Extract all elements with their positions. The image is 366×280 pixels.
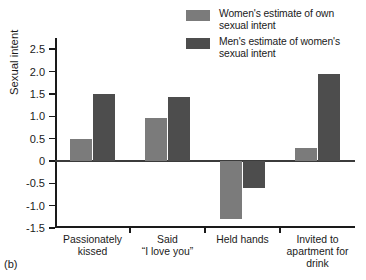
x-axis-category-label: Passionately kissed [55, 234, 130, 258]
bar [168, 97, 190, 160]
y-axis-tick: -0.5 [49, 183, 55, 184]
bar [145, 118, 167, 161]
y-axis-tick: 1.0 [49, 116, 55, 117]
legend-item-label: Women's estimate of own sexual intent [219, 8, 334, 31]
y-axis-tick: 2.0 [49, 71, 55, 72]
y-axis-title: Sexual intent [8, 30, 20, 95]
x-axis-tick [279, 228, 280, 233]
y-axis-tick-label: 0.5 [30, 133, 45, 145]
y-axis-tick-label: 1.0 [30, 110, 45, 122]
y-axis-tick: -1.5 [49, 227, 55, 228]
y-axis-tick: 1.5 [49, 93, 55, 94]
y-axis-tick-label: 1.5 [30, 88, 45, 100]
x-axis-category-label: Said “I love you” [130, 234, 205, 258]
y-axis-tick-label: 2.5 [30, 43, 45, 55]
x-axis-tick [129, 228, 130, 233]
y-axis-tick: 0.5 [49, 138, 55, 139]
plot-area: 2.52.01.51.00.50-0.5-1.0-1.5 [55, 38, 355, 228]
bar [243, 161, 265, 188]
y-axis-tick: -1.0 [49, 205, 55, 206]
y-axis-tick-label: 0 [39, 155, 45, 167]
y-axis-tick: 2.5 [49, 48, 55, 49]
bar [220, 161, 242, 219]
bar [93, 94, 115, 161]
x-axis-category-label: Held hands [205, 234, 280, 246]
x-axis-category-label: Invited to apartment for drink [280, 234, 355, 269]
y-axis-tick: 0 [49, 160, 55, 161]
y-axis-tick-label: -0.5 [26, 177, 45, 189]
y-axis-tick-label: -1.5 [26, 222, 45, 234]
bar [318, 74, 340, 161]
bar [295, 148, 317, 161]
legend-swatch-women [186, 10, 210, 21]
bar [70, 139, 92, 161]
y-axis-line [55, 38, 57, 228]
y-axis-tick-label: 2.0 [30, 66, 45, 78]
y-axis-tick-label: -1.0 [26, 200, 45, 212]
panel-tag: (b) [4, 258, 17, 270]
sexual-intent-bar-chart: Women's estimate of own sexual intentMen… [0, 0, 366, 280]
legend-item: Women's estimate of own sexual intent [186, 8, 366, 31]
x-axis-tick [204, 228, 205, 233]
